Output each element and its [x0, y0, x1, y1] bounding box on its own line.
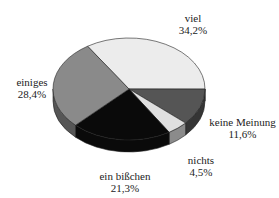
- label-viel: viel 34,2%: [168, 12, 218, 36]
- slice-label: nichts: [180, 154, 222, 166]
- label-ein-bisschen: ein bißchen 21,3%: [90, 170, 160, 194]
- slice-value: 28,4%: [12, 88, 52, 100]
- label-einiges: einiges 28,4%: [12, 76, 52, 100]
- label-nichts: nichts 4,5%: [180, 154, 222, 178]
- slice-label: ein bißchen: [90, 170, 160, 182]
- slice-label: einiges: [12, 76, 52, 88]
- slice-value: 21,3%: [90, 182, 160, 194]
- slice-value: 11,6%: [205, 128, 279, 140]
- slice-value: 34,2%: [168, 24, 218, 36]
- pie-top: [53, 38, 205, 140]
- slice-label: viel: [168, 12, 218, 24]
- slice-label: keine Meinung: [205, 116, 279, 128]
- slice-value: 4,5%: [180, 166, 222, 178]
- label-keine-meinung: keine Meinung 11,6%: [205, 116, 279, 140]
